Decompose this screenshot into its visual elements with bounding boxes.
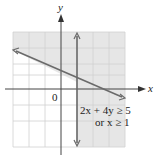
inequality-label-line1: 2x + 4y ≥ 5	[80, 104, 131, 116]
origin-label: 0	[52, 91, 58, 103]
inequality-label-line2: or x ≥ 1	[95, 116, 129, 128]
y-axis-arrow-icon	[58, 14, 64, 22]
x-axis-arrow-icon	[138, 86, 146, 92]
y-axis-label: y	[57, 1, 63, 13]
inequality-graph: x y 0 2x + 4y ≥ 5 or x ≥ 1	[0, 0, 156, 165]
x-axis-label: x	[147, 82, 153, 94]
